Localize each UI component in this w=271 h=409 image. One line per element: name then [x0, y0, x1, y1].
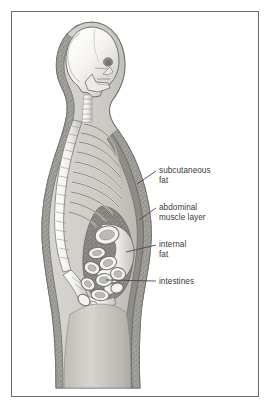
label-internal-fat: internal fat [159, 240, 186, 259]
label-intestines: intestines [159, 277, 194, 287]
figure-container: subcutaneous fat abdominal muscle layer … [0, 0, 271, 409]
anatomy-illustration [0, 0, 271, 409]
label-abdominal-muscle-layer: abdominal muscle layer [159, 203, 206, 222]
label-subcutaneous-fat: subcutaneous fat [159, 166, 211, 185]
cervical-spine [82, 95, 92, 122]
